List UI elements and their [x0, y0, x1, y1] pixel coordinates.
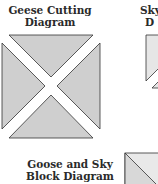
sky-square-piece: [146, 35, 158, 81]
goose-and-sky-block-diagram: [125, 153, 158, 184]
diagrams-canvas: [0, 0, 158, 184]
sky-cutting-diagram: [146, 35, 158, 88]
geese-cutting-diagram: [2, 35, 100, 138]
sky-triangle-piece: [152, 80, 158, 88]
